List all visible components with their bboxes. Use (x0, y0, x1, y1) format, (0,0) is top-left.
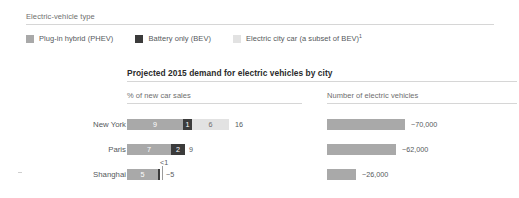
bar-value-phev: 5 (127, 169, 158, 180)
table-row: Paris 7 2 9 ~62,000 (127, 144, 517, 155)
chart-title: Projected 2015 demand for electric vehic… (127, 68, 517, 78)
bar-value-vehicles: ~26,000 (362, 169, 388, 180)
legend-item-bev[interactable]: Battery only (BEV) (135, 34, 211, 43)
stacked-bar-percent[interactable]: 5 (127, 169, 160, 180)
legend-item-citycar[interactable]: Electric city car (a subset of BEV)1 (233, 34, 362, 43)
table-row: Shanghai 5 <1 ~5 ~26,000 (127, 169, 517, 180)
bar-total-percent: ~5 (166, 169, 174, 180)
chart-panel: Projected 2015 demand for electric vehic… (127, 68, 517, 191)
bar-value-phev: 7 (127, 144, 171, 155)
column-divider-number (327, 103, 517, 104)
legend-block: Electric-vehicle type Plug-in hybrid (PH… (26, 12, 494, 43)
bar-vehicles[interactable] (327, 119, 405, 130)
stacked-bar-percent[interactable]: 7 2 (127, 144, 185, 155)
bar-vehicles[interactable] (327, 169, 356, 180)
column-header-percent: % of new car sales (127, 91, 191, 100)
stacked-bar-percent[interactable]: 9 1 6 (127, 119, 229, 130)
bar-value-vehicles: ~62,000 (402, 144, 428, 155)
bar-segment-phev[interactable]: 5 (127, 169, 158, 180)
bar-segment-phev[interactable]: 9 (127, 119, 183, 130)
row-label-city: Shanghai (6, 169, 126, 180)
legend-label-citycar-text: Electric city car (a subset of BEV) (246, 34, 359, 43)
legend-swatch-citycar (233, 35, 241, 43)
legend-label-bev: Battery only (BEV) (148, 34, 211, 43)
bar-segment-bev[interactable]: 1 (183, 119, 192, 130)
bar-total-percent: 16 (235, 119, 243, 130)
legend-label-phev: Plug-in hybrid (PHEV) (39, 34, 113, 43)
legend-swatch-bev (135, 35, 143, 43)
bar-callout-leader (162, 166, 163, 180)
row-label-city: New York (6, 119, 126, 130)
legend-label-citycar: Electric city car (a subset of BEV)1 (246, 34, 362, 43)
chart-columns: % of new car sales Number of electric ve… (127, 91, 517, 191)
bar-value-bev: 2 (171, 144, 185, 155)
bar-value-bev: 1 (183, 119, 192, 130)
legend-swatch-phev (26, 35, 34, 43)
column-header-number: Number of electric vehicles (327, 91, 418, 100)
bar-segment-phev[interactable]: 7 (127, 144, 171, 155)
bar-segment-bev[interactable] (158, 169, 160, 180)
legend-divider (26, 24, 494, 25)
bar-vehicles[interactable] (327, 144, 396, 155)
table-row: New York 9 1 6 16 ~70,000 (127, 119, 517, 130)
bar-total-percent: 9 (189, 144, 193, 155)
legend-items: Plug-in hybrid (PHEV) Battery only (BEV)… (26, 34, 494, 43)
legend-item-phev[interactable]: Plug-in hybrid (PHEV) (26, 34, 113, 43)
bar-segment-citycar[interactable]: 6 (192, 119, 229, 130)
bar-segment-bev[interactable]: 2 (171, 144, 185, 155)
legend-footnote-marker: 1 (359, 33, 362, 39)
legend-title: Electric-vehicle type (26, 12, 494, 24)
chart-title-divider (127, 81, 517, 82)
bar-value-phev: 9 (127, 119, 183, 130)
bar-value-vehicles: ~70,000 (411, 119, 437, 130)
bar-value-citycar: 6 (192, 119, 229, 130)
row-label-city: Paris (6, 144, 126, 155)
column-divider-percent (127, 103, 302, 104)
